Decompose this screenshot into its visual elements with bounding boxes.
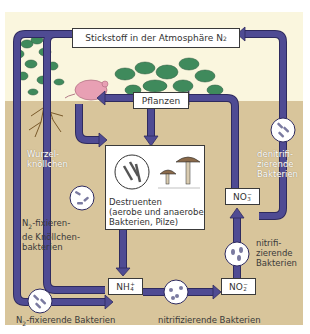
nitrite-box: NO−2 [221,278,256,295]
nodule-bacteria-icon [70,186,94,210]
plant-icon [115,58,223,95]
nitrifying-bacteria-bottom-icon [164,280,188,304]
n2-fixing-bacteria-label: N2-fixierende Bakterien [16,315,115,329]
atmosphere-n2-box: Stickstoff in der Atmosphäre N2 [72,28,240,48]
nitrate-box: NO−3 [225,188,260,205]
ammonium-box: NH+4 [108,278,143,295]
decomposers-box: Destruenten (aerobe und anaerobe Bakteri… [105,145,205,230]
atmosphere-title: Stickstoff in der Atmosphäre N [85,33,223,43]
nitrifying-bacteria-right-icon [225,242,249,266]
nodule-bacteria-label: N2-fixieren- de Knöllchen- bakterien [22,218,80,252]
nitrogen-cycle-diagram: Stickstoff in der Atmosphäre N2 Pflanzen… [5,12,303,325]
mushroom-icon [156,152,202,192]
clover-plant-icon [14,36,64,95]
denitrifying-bacteria-label: denitrifi- zierende Bakterien [257,149,298,179]
plants-box: Pflanzen [133,92,189,109]
n2-fixing-bacteria-icon [28,289,52,313]
nitrifying-bacteria-right-label: nitrifi- zierende Bakterien [256,238,297,268]
bacteria-petri-icon [112,152,152,192]
nitrifying-bacteria-bottom-label: nitrifizierende Bakterien [158,315,261,325]
denitrifying-bacteria-icon [271,118,295,142]
root-nodules-label: Wurzel- knöllchen [27,149,68,169]
